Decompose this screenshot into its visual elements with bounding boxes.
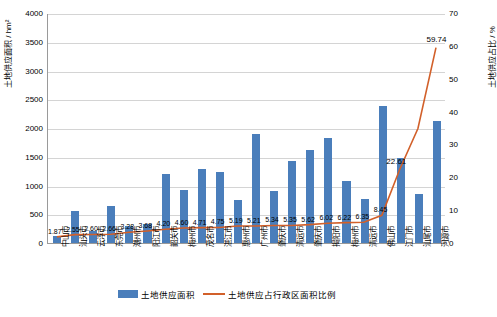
chart-legend: 土地供应面积 土地供应占行政区面积比例: [118, 288, 336, 300]
point-label: 1.87: [48, 228, 62, 235]
y-axis-right-title: 土地供应占比 / %: [486, 26, 497, 88]
y-tick-left: 2000: [10, 124, 43, 133]
legend-label-bar: 土地供应面积: [141, 288, 195, 300]
x-category-label: 清远市: [294, 226, 305, 247]
point-label: 5.19: [229, 217, 243, 224]
y-tick-left: 1500: [10, 153, 43, 162]
point-label: 2.55: [66, 226, 80, 233]
point-label: 22.61: [386, 157, 406, 166]
y-tick-left: 3500: [10, 38, 43, 47]
y-tick-left: 1000: [10, 182, 43, 191]
legend-item-line: 土地供应占行政区面积比例: [203, 288, 336, 300]
x-category-label: 河源市: [439, 226, 450, 247]
y-tick-left: 2500: [10, 95, 43, 104]
y-tick-right: 60: [449, 42, 458, 51]
legend-item-bar: 土地供应面积: [118, 288, 195, 300]
point-label: 5.35: [283, 216, 297, 223]
y-axis-left-title: 土地供应面积 / hm²: [2, 20, 13, 88]
legend-swatch-bar-icon: [118, 290, 138, 298]
y-tick-left: 0: [10, 239, 43, 248]
x-category-label: 湛江市: [222, 226, 233, 247]
point-label: 5.62: [301, 216, 315, 223]
point-label: 5.34: [265, 216, 279, 223]
point-label: 6.35: [356, 213, 370, 220]
point-label: 8.45: [374, 206, 388, 213]
x-category-label: 汕尾市: [421, 226, 432, 247]
x-category-label: 广州市: [258, 226, 269, 247]
x-category-label: 惠州市: [240, 226, 251, 247]
point-label: 6.02: [319, 214, 333, 221]
point-label: 4.60: [175, 219, 189, 226]
y-tick-left: 4000: [10, 9, 43, 18]
x-category-label: 阳江市: [150, 226, 161, 247]
x-category-label: 清远市: [367, 226, 378, 247]
y-tick-right: 50: [449, 75, 458, 84]
point-label: 4.75: [211, 218, 225, 225]
y-tick-right: 40: [449, 108, 458, 117]
point-label: 2.66: [102, 225, 116, 232]
legend-swatch-line-icon: [203, 293, 225, 295]
y-tick-right: 10: [449, 206, 458, 215]
x-category-label: 梅州市: [349, 226, 360, 247]
y-tick-left: 500: [10, 210, 43, 219]
x-category-label: 肇庆市: [276, 226, 287, 247]
point-label: 5.21: [247, 217, 261, 224]
x-category-label: 江门市: [403, 226, 414, 247]
y-tick-right: 20: [449, 173, 458, 182]
x-category-label: 肇庆市: [312, 226, 323, 247]
point-label: 3.68: [139, 222, 153, 229]
x-category-label: 韶关市: [168, 226, 179, 247]
point-label: 4.71: [193, 219, 207, 226]
y-tick-left: 3000: [10, 67, 43, 76]
legend-label-line: 土地供应占行政区面积比例: [228, 288, 336, 300]
point-label: 59.74: [426, 35, 446, 44]
point-label: 4.20: [157, 220, 171, 227]
point-label: 2.60: [84, 225, 98, 232]
x-category-label: 揭阳市: [330, 226, 341, 247]
x-category-label: 梅州市: [186, 226, 197, 247]
x-category-label: 佛山市: [385, 226, 396, 247]
point-label: 6.22: [338, 214, 352, 221]
x-category-label: 茂名市: [204, 226, 215, 247]
y-tick-right: 30: [449, 140, 458, 149]
point-label: 3.28: [120, 223, 134, 230]
y-tick-right: 70: [449, 9, 458, 18]
